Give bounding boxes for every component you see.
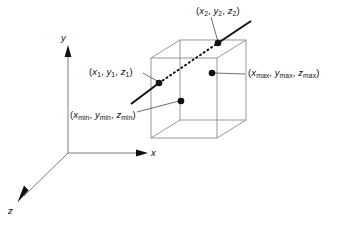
y-axis-label: y bbox=[61, 33, 66, 43]
label-point2-z: z bbox=[228, 5, 233, 16]
box-front-face bbox=[151, 58, 217, 138]
segment-dashed-inside bbox=[159, 43, 218, 83]
label-min-y: y bbox=[95, 109, 100, 120]
leader-point1 bbox=[143, 73, 157, 81]
figure-root: y x z (x2, y2, z2) (x1, y1, z1) (xmax, y… bbox=[0, 0, 337, 226]
label-max-y: y bbox=[275, 67, 280, 78]
label-point1-z: z bbox=[121, 66, 126, 77]
marker-point1 bbox=[156, 80, 163, 87]
label-max-y-sub: max bbox=[280, 72, 293, 79]
label-min: (xmin, ymin, zmin) bbox=[70, 110, 136, 120]
z-axis-label: z bbox=[8, 206, 13, 216]
label-max-z-sub: max bbox=[303, 72, 316, 79]
label-point2-y-sub: 2 bbox=[218, 10, 222, 17]
leader-lines-group bbox=[137, 17, 245, 112]
box-back-face bbox=[180, 40, 246, 120]
leader-max bbox=[214, 73, 245, 74]
marker-point2 bbox=[215, 40, 222, 47]
label-min-z-sub: min bbox=[121, 114, 132, 121]
label-point1-z-sub: 1 bbox=[126, 71, 130, 78]
label-max-close: ) bbox=[316, 67, 319, 78]
box-edge-bottom-left bbox=[151, 120, 180, 138]
label-point1-x-sub: 1 bbox=[97, 71, 101, 78]
line-segment-group bbox=[131, 21, 251, 104]
bounding-box-group bbox=[151, 40, 246, 138]
label-max: (xmax, ymax, zmax) bbox=[248, 68, 320, 78]
label-point2-z-sub: 2 bbox=[233, 10, 237, 17]
label-max-x-sub: max bbox=[256, 72, 269, 79]
y-axis-arrowhead bbox=[65, 45, 72, 57]
z-axis-arrowhead bbox=[18, 186, 29, 203]
diagram-canvas bbox=[0, 0, 337, 226]
label-point2-close: ) bbox=[236, 5, 239, 16]
label-point2: (x2, y2, z2) bbox=[196, 6, 240, 16]
label-min-x-sub: min bbox=[78, 114, 89, 121]
label-point2-x-sub: 2 bbox=[204, 10, 208, 17]
leader-point2 bbox=[211, 17, 218, 40]
segment-solid-lower bbox=[131, 83, 159, 104]
z-axis-line bbox=[24, 153, 68, 196]
label-point1-y-sub: 1 bbox=[111, 71, 115, 78]
leader-min bbox=[137, 101, 179, 112]
label-point1: (x1, y1, z1) bbox=[89, 67, 133, 77]
x-axis-label: x bbox=[151, 148, 156, 158]
box-edge-top-left bbox=[151, 40, 180, 58]
box-edge-bottom-right bbox=[217, 120, 246, 138]
x-axis-arrowhead bbox=[136, 150, 148, 157]
label-point1-close: ) bbox=[129, 66, 132, 77]
marker-min bbox=[178, 98, 185, 105]
box-edge-top-right bbox=[217, 40, 246, 58]
label-min-y-sub: min bbox=[100, 114, 111, 121]
label-min-close: ) bbox=[133, 109, 136, 120]
marker-max bbox=[209, 70, 216, 77]
